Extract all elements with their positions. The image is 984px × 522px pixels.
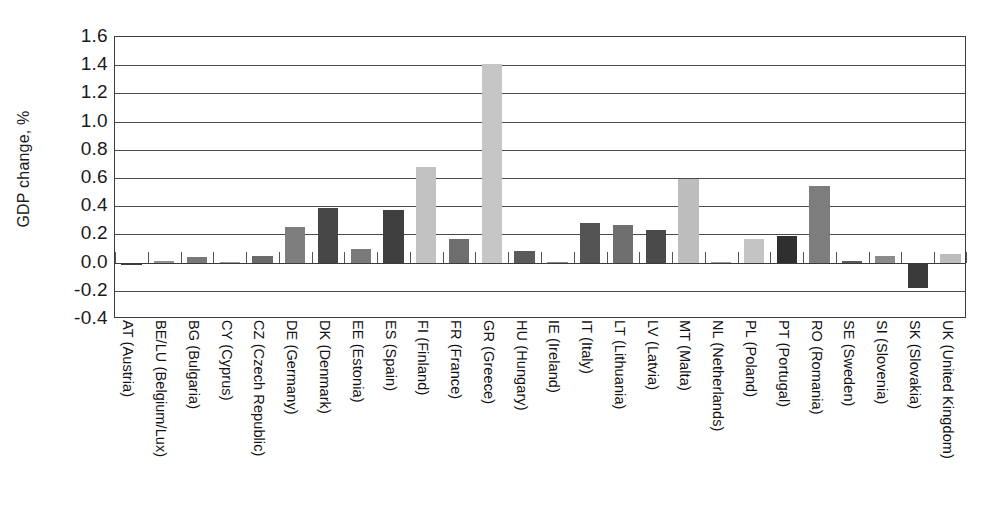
x-axis-tick (607, 252, 608, 263)
x-category-label: BE/LU (Belgium/Lux) (153, 320, 169, 457)
x-axis-tick (803, 252, 804, 263)
bar[interactable] (449, 239, 469, 263)
x-category-label: SI (Slovenia) (874, 320, 890, 404)
x-axis-tick (770, 252, 771, 263)
gridline (115, 122, 965, 123)
x-axis-tick (181, 252, 182, 263)
y-tick-label: -0.4 (74, 307, 108, 329)
bar[interactable] (351, 249, 371, 263)
x-category-label: IE (Ireland) (546, 320, 562, 393)
y-tick-label: 1.4 (81, 53, 108, 75)
bar[interactable] (678, 179, 698, 262)
y-tick-label: 0.8 (81, 138, 108, 160)
x-axis-tick (312, 252, 313, 263)
bar[interactable] (187, 257, 207, 263)
x-category-label: GR (Greece) (481, 320, 497, 404)
bar[interactable] (711, 262, 731, 263)
y-tick-label: 0.6 (81, 166, 108, 188)
x-category-label: DK (Denmark) (317, 320, 333, 414)
zero-axis-line (115, 263, 965, 264)
bar[interactable] (383, 210, 403, 262)
bar[interactable] (613, 225, 633, 263)
bar[interactable] (285, 227, 305, 262)
bar[interactable] (416, 167, 436, 263)
gridline (115, 93, 965, 94)
gdp-change-bar-chart: GDP change, % 1.61.41.21.00.80.60.40.20.… (0, 0, 984, 522)
y-tick-label: 0.0 (81, 251, 108, 273)
bar[interactable] (514, 251, 534, 262)
bar[interactable] (777, 236, 797, 263)
x-category-label: PT (Portugal) (776, 320, 792, 407)
x-axis-tick (966, 252, 967, 263)
x-category-label: IT (Italy) (579, 320, 595, 374)
x-axis-tick (705, 252, 706, 263)
x-category-label: CZ (Czech Republic) (251, 320, 267, 456)
x-axis-tick (213, 252, 214, 263)
gridline (115, 234, 965, 235)
x-category-label: NL (Netherlands) (710, 320, 726, 431)
gridline (115, 291, 965, 292)
x-axis-tick (934, 252, 935, 263)
x-category-label: AT (Austria) (120, 320, 136, 397)
x-category-label: LV (Latvia) (645, 320, 661, 390)
x-axis-tick (901, 252, 902, 263)
x-axis-tick (443, 252, 444, 263)
bar[interactable] (121, 263, 141, 265)
x-axis-tick (279, 252, 280, 263)
y-tick-label: 0.4 (81, 194, 108, 216)
bar[interactable] (580, 223, 600, 262)
y-tick-label: 0.2 (81, 222, 108, 244)
x-axis-tick (672, 252, 673, 263)
x-axis-tick (738, 252, 739, 263)
x-axis-tick (541, 252, 542, 263)
x-axis-tick (869, 252, 870, 263)
x-axis-category-labels: AT (Austria)BE/LU (Belgium/Lux)BG (Bulga… (114, 320, 966, 520)
x-category-label: EE (Estonia) (350, 320, 366, 403)
bar[interactable] (875, 256, 895, 263)
bar[interactable] (154, 261, 174, 263)
bar[interactable] (482, 64, 502, 263)
bar[interactable] (547, 262, 567, 263)
x-category-label: BG (Bulgaria) (186, 320, 202, 409)
bar[interactable] (842, 261, 862, 263)
x-axis-tick (377, 252, 378, 263)
bar[interactable] (809, 186, 829, 262)
x-category-label: CY (Cyprus) (219, 320, 235, 401)
x-axis-tick (115, 252, 116, 263)
gridline (115, 65, 965, 66)
x-axis-tick (410, 252, 411, 263)
gridline (115, 206, 965, 207)
bar[interactable] (908, 263, 928, 288)
x-category-label: UK (United Kingdom) (940, 320, 956, 459)
x-axis-tick (836, 252, 837, 263)
x-axis-tick (574, 252, 575, 263)
y-tick-label: 1.2 (81, 81, 108, 103)
x-axis-tick (148, 252, 149, 263)
y-axis-tick-labels: 1.61.41.21.00.80.60.40.20.0-0.2-0.4 (30, 0, 108, 330)
x-category-label: FI (Finland) (415, 320, 431, 395)
y-tick-label: 1.6 (81, 25, 108, 47)
bar[interactable] (252, 256, 272, 263)
y-tick-label: 1.0 (81, 110, 108, 132)
plot-area (114, 36, 966, 318)
gridline (115, 150, 965, 151)
gridline (115, 178, 965, 179)
x-axis-tick (639, 252, 640, 263)
x-category-label: ES (Spain) (383, 320, 399, 391)
x-category-label: DE (Germany) (284, 320, 300, 415)
bar[interactable] (646, 230, 666, 262)
x-category-label: SE (Sweden) (841, 320, 857, 407)
x-category-label: HU (Hungary) (514, 320, 530, 411)
x-category-label: RO (Romania) (809, 320, 825, 415)
bar[interactable] (220, 262, 240, 263)
x-axis-tick (344, 252, 345, 263)
bar[interactable] (744, 239, 764, 263)
x-axis-tick (246, 252, 247, 263)
x-category-label: FR (France) (448, 320, 464, 399)
bar[interactable] (318, 208, 338, 263)
x-category-label: LT (Lithuania) (612, 320, 628, 410)
bar[interactable] (940, 254, 960, 262)
x-category-label: MT (Malta) (677, 320, 693, 391)
y-tick-label: -0.2 (74, 279, 108, 301)
x-category-label: SK (Slovakia) (907, 320, 923, 409)
